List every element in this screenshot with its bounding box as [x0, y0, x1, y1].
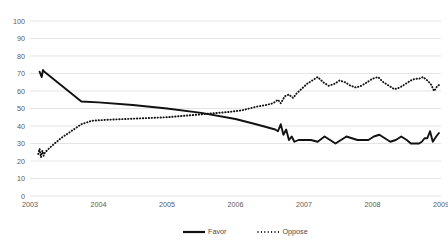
y-tick-label: 100 — [13, 17, 25, 26]
x-tick-label: 2008 — [365, 200, 381, 209]
x-axis-tick-labels: 2003200420052006200720082009 — [22, 200, 448, 209]
x-tick-label: 2004 — [91, 200, 107, 209]
x-tick-label: 2007 — [296, 200, 312, 209]
y-tick-label: 20 — [17, 157, 25, 166]
chart-container: 0102030405060708090100 20032004200520062… — [0, 0, 448, 252]
legend-label-favor: Favor — [208, 227, 227, 236]
series-line-oppose — [38, 77, 441, 158]
x-tick-label: 2006 — [228, 200, 244, 209]
y-tick-label: 90 — [17, 34, 25, 43]
data-series-group — [38, 70, 441, 158]
gridlines-group — [30, 21, 441, 196]
y-tick-label: 40 — [17, 122, 25, 131]
chart-legend: FavorOppose — [183, 227, 308, 236]
y-tick-label: 60 — [17, 87, 25, 96]
y-tick-label: 70 — [17, 69, 25, 78]
x-tick-label: 2003 — [22, 200, 38, 209]
y-axis-tick-labels: 0102030405060708090100 — [13, 17, 25, 201]
line-chart: 0102030405060708090100 20032004200520062… — [0, 0, 448, 252]
y-tick-label: 10 — [17, 174, 25, 183]
legend-label-oppose: Oppose — [283, 227, 308, 236]
x-tick-label: 2009 — [433, 200, 448, 209]
series-line-favor — [40, 70, 439, 144]
x-tick-label: 2005 — [159, 200, 175, 209]
y-tick-label: 30 — [17, 139, 25, 148]
y-tick-label: 50 — [17, 104, 25, 113]
y-tick-label: 80 — [17, 52, 25, 61]
